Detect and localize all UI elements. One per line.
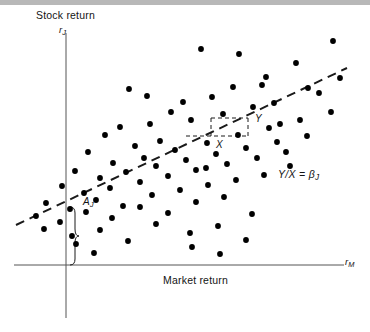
scatter-point — [69, 233, 75, 239]
scatter-point — [109, 215, 115, 221]
scatter-point — [205, 182, 211, 188]
scatter-point — [107, 185, 113, 191]
scatter-point — [123, 169, 129, 175]
scatter-point — [337, 75, 343, 81]
scatter-point — [328, 109, 334, 115]
scatter-point — [149, 192, 155, 198]
scatter-point — [180, 99, 186, 105]
scatter-point — [189, 244, 195, 250]
slope-equation-subscript: J — [315, 173, 319, 182]
scatter-point — [266, 125, 272, 131]
scatter-point — [72, 168, 78, 174]
y-axis-title: Stock return — [36, 9, 95, 21]
scatter-point — [193, 199, 199, 205]
scatter-point — [277, 121, 283, 127]
scatter-point — [141, 155, 147, 161]
scatter-point — [249, 211, 255, 217]
scatter-point — [132, 143, 138, 149]
intercept-label-subscript: J — [90, 200, 94, 209]
scatter-points-group — [33, 38, 343, 257]
scatter-point — [110, 160, 116, 166]
scatter-point — [254, 155, 260, 161]
scatter-point — [102, 132, 108, 138]
scatter-point — [215, 223, 221, 229]
scatter-point — [153, 221, 159, 227]
scatter-point — [316, 90, 322, 96]
scatter-point — [137, 179, 143, 185]
scatter-point — [97, 175, 103, 181]
scatter-point — [183, 157, 189, 163]
slope-equation-label: Y/X = βJ — [278, 168, 319, 182]
scatter-point — [204, 140, 210, 146]
scatter-point — [209, 94, 215, 100]
y-axis-symbol-subscript: J — [62, 28, 66, 37]
scatter-point — [117, 124, 123, 130]
scatter-point — [305, 85, 311, 91]
slope-equation-base: Y/X = β — [278, 168, 315, 180]
scatter-point — [153, 163, 159, 169]
scatter-point — [67, 206, 73, 212]
scatter-point — [59, 183, 65, 189]
scatter-point — [165, 173, 171, 179]
scatter-point — [41, 226, 47, 232]
scatter-point — [73, 241, 79, 247]
scatter-point — [33, 213, 39, 219]
scatter-point — [297, 117, 303, 123]
scatter-point — [91, 250, 97, 256]
scatter-point — [137, 204, 143, 210]
scatter-point — [43, 200, 49, 206]
scatter-point — [125, 238, 131, 244]
scatter-point — [221, 194, 227, 200]
scatter-point — [243, 237, 249, 243]
scatter-point — [85, 149, 91, 155]
scatter-point — [193, 167, 199, 173]
scatter-point — [147, 121, 153, 127]
scatter-point — [172, 147, 178, 153]
scatter-point — [263, 74, 269, 80]
scatter-point — [233, 177, 239, 183]
intercept-label-base: A — [83, 196, 90, 207]
rise-label: Y — [255, 113, 262, 124]
scatter-chart-figure: Stock return rJ Market return rM AJ X Y … — [0, 0, 370, 332]
scatter-point — [259, 82, 265, 88]
scatter-point — [236, 51, 242, 57]
scatter-point — [261, 172, 267, 178]
scatter-point — [126, 86, 132, 92]
x-axis-symbol: rM — [345, 256, 354, 269]
scatter-point — [330, 38, 336, 44]
x-axis-symbol-subscript: M — [348, 260, 354, 269]
scatter-point — [213, 151, 219, 157]
scatter-point — [188, 117, 194, 123]
scatter-point — [157, 138, 163, 144]
scatter-point — [187, 230, 193, 236]
y-axis-symbol: rJ — [59, 24, 66, 37]
scatter-point — [217, 251, 223, 257]
scatter-point — [293, 60, 299, 66]
scatter-point — [203, 165, 209, 171]
x-axis-title: Market return — [163, 274, 228, 286]
scatter-point — [168, 109, 174, 115]
intercept-label: AJ — [83, 196, 94, 209]
scatter-point — [165, 210, 171, 216]
run-label: X — [216, 139, 223, 150]
scatter-point — [304, 133, 310, 139]
scatter-point — [97, 227, 103, 233]
scatter-point — [243, 145, 249, 151]
scatter-point — [198, 46, 204, 52]
scatter-point — [283, 149, 289, 155]
scatter-point — [93, 197, 99, 203]
scatter-point — [83, 209, 89, 215]
scatter-point — [250, 104, 256, 110]
scatter-point — [274, 139, 280, 145]
scatter-point — [144, 93, 150, 99]
scatter-point — [224, 161, 230, 167]
scatter-point — [230, 84, 236, 90]
scatter-point — [120, 203, 126, 209]
scatter-point — [57, 219, 63, 225]
scatter-point — [220, 111, 226, 117]
scatter-point — [235, 132, 241, 138]
scatter-point — [177, 187, 183, 193]
scatter-point — [271, 100, 277, 106]
